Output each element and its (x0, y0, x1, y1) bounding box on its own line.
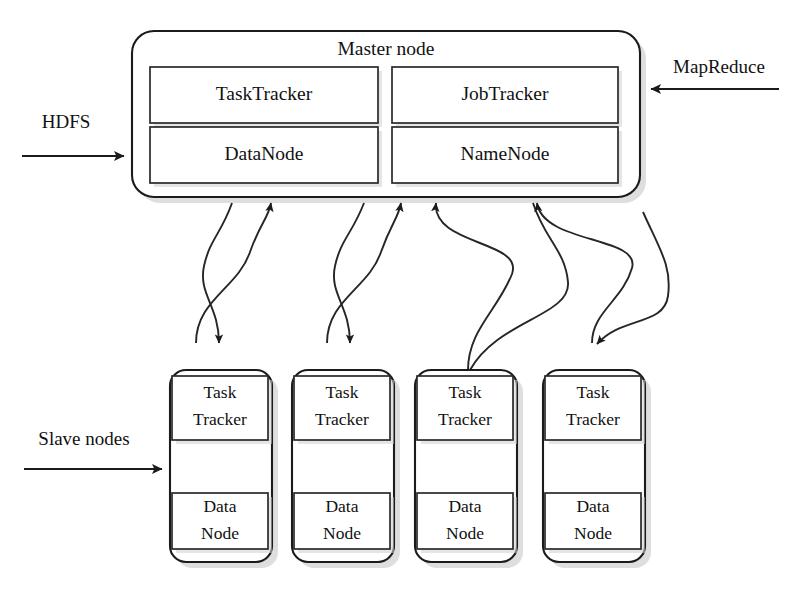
master-node-title: Master node (338, 38, 435, 59)
master-tasktracker-label: TaskTracker (216, 83, 313, 104)
mapreduce-label: MapReduce (673, 56, 765, 77)
slave-node-2-tasktracker-line1: Task (326, 382, 359, 402)
connector-slave3-to-master (436, 203, 513, 370)
hdfs-label: HDFS (42, 111, 91, 132)
hadoop-architecture-diagram: Master node TaskTracker JobTracker DataN… (0, 0, 798, 596)
master-namenode-label: NameNode (461, 143, 550, 164)
slave-node-2-datanode-line2: Node (323, 523, 361, 543)
slave-node-2-tasktracker-line2: Tracker (315, 409, 369, 429)
slave-node-1-datanode-line1: Data (203, 496, 236, 516)
slave-node-3-tasktracker-line2: Tracker (438, 409, 492, 429)
slave-node-3-datanode-line1: Data (448, 496, 481, 516)
connector-master-to-slave1 (203, 203, 232, 343)
slave-node-4-datanode-line2: Node (574, 523, 612, 543)
connector-master-to-slave2 (334, 203, 364, 343)
mapreduce-input-group: MapReduce (651, 56, 779, 89)
slave-node-4-tasktracker-line2: Tracker (566, 409, 620, 429)
slave-node-1-tasktracker-line1: Task (204, 382, 237, 402)
connector-master-to-slave3 (470, 203, 568, 370)
slave-node-3-datanode-line2: Node (446, 523, 484, 543)
slave-nodes-label: Slave nodes (38, 428, 129, 449)
slave-node-4[interactable]: Task Tracker Data Node (543, 370, 651, 568)
slave-node-1-tasktracker-line2: Tracker (193, 409, 247, 429)
master-jobtracker-label: JobTracker (461, 83, 549, 104)
slave-node-3-tasktracker-line1: Task (449, 382, 482, 402)
slave-node-4-tasktracker-line1: Task (577, 382, 610, 402)
connector-slave2-to-master (327, 203, 401, 343)
hdfs-input-group: HDFS (22, 111, 124, 156)
slave-node-2[interactable]: Task Tracker Data Node (292, 370, 400, 568)
master-slave-connectors (196, 203, 669, 370)
slave-node-2-datanode-line1: Data (325, 496, 358, 516)
master-node-group: Master node TaskTracker JobTracker DataN… (132, 31, 646, 203)
connector-slave4-to-master (537, 203, 633, 343)
slave-node-1[interactable]: Task Tracker Data Node (170, 370, 278, 568)
slave-node-1-datanode-line2: Node (201, 523, 239, 543)
diagram-canvas: Master node TaskTracker JobTracker DataN… (0, 0, 798, 596)
slave-node-3[interactable]: Task Tracker Data Node (415, 370, 523, 568)
connector-slave1-to-master (196, 203, 271, 343)
connector-master-to-slave4 (597, 212, 669, 344)
slave-nodes-input-group: Slave nodes (24, 428, 162, 469)
slave-node-4-datanode-line1: Data (576, 496, 609, 516)
master-datanode-label: DataNode (224, 143, 303, 164)
